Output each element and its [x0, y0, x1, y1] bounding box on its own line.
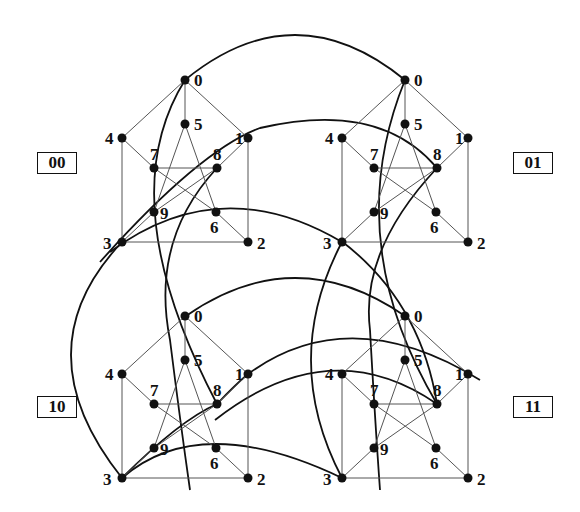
edge-6-2 [436, 212, 468, 242]
vertex-1 [244, 370, 253, 379]
vertex-8 [433, 164, 442, 173]
vertex-label-1: 1 [235, 129, 244, 148]
arc-8-00-to-bottom [165, 168, 217, 490]
vertex-label-9: 9 [160, 204, 169, 223]
edge-3-9 [342, 448, 374, 478]
vertex-label-2: 2 [477, 234, 486, 253]
vertex-9 [370, 208, 379, 217]
vertex-label-2: 2 [257, 470, 266, 489]
vertex-3 [118, 474, 127, 483]
vertex-4 [338, 134, 347, 143]
vertex-label-5: 5 [194, 115, 203, 134]
vertex-0 [401, 76, 410, 85]
vertex-label-0: 0 [414, 307, 423, 326]
vertex-label-4: 4 [325, 365, 334, 384]
vertex-label-7: 7 [150, 381, 159, 400]
vertex-label-3: 3 [323, 234, 332, 253]
vertex-3 [338, 474, 347, 483]
edge-0-4 [122, 80, 185, 138]
vertex-6 [212, 444, 221, 453]
vertex-label-5: 5 [414, 115, 423, 134]
vertex-label-8: 8 [433, 381, 442, 400]
arc-0-00-to-0-01 [185, 35, 405, 80]
vertex-label-9: 9 [380, 440, 389, 459]
vertex-label-0: 0 [414, 71, 423, 90]
vertex-8 [433, 400, 442, 409]
vertex-6 [432, 208, 441, 217]
vertex-label-6: 6 [210, 218, 219, 237]
vertex-label-4: 4 [105, 129, 114, 148]
vertex-0 [401, 312, 410, 321]
vertex-label-1: 1 [455, 129, 464, 148]
vertex-4 [118, 134, 127, 143]
graph-copy-00: 0541789632 [103, 71, 266, 253]
vertex-2 [244, 474, 253, 483]
vertex-2 [464, 238, 473, 247]
graph-copies: 0541789632054178963205417896320541789632 [103, 71, 486, 489]
vertex-9 [150, 208, 159, 217]
vertex-label-9: 9 [160, 440, 169, 459]
vertex-label-5: 5 [414, 351, 423, 370]
vertex-label-3: 3 [323, 470, 332, 489]
vertex-label-0: 0 [194, 307, 203, 326]
copy-label-11: 11 [513, 396, 553, 418]
edge-6-2 [436, 448, 468, 478]
vertex-1 [244, 134, 253, 143]
graph-copy-01: 0541789632 [323, 71, 486, 253]
vertex-5 [181, 356, 190, 365]
vertex-label-8: 8 [433, 145, 442, 164]
vertex-8 [213, 164, 222, 173]
vertex-label-4: 4 [105, 365, 114, 384]
graph-canvas: 0541789632054178963205417896320541789632 [0, 0, 580, 512]
vertex-0 [181, 76, 190, 85]
vertex-6 [432, 444, 441, 453]
vertex-3 [118, 238, 127, 247]
vertex-label-6: 6 [430, 454, 439, 473]
vertex-4 [338, 370, 347, 379]
copy-label-10: 10 [37, 396, 77, 418]
vertex-label-3: 3 [103, 234, 112, 253]
vertex-label-3: 3 [103, 470, 112, 489]
vertex-label-7: 7 [370, 381, 379, 400]
vertex-label-6: 6 [430, 218, 439, 237]
vertex-label-5: 5 [194, 351, 203, 370]
vertex-6 [212, 208, 221, 217]
vertex-2 [464, 474, 473, 483]
vertex-7 [370, 164, 379, 173]
vertex-label-2: 2 [477, 470, 486, 489]
edge-0-4 [342, 316, 405, 374]
vertex-5 [401, 356, 410, 365]
vertex-label-1: 1 [235, 365, 244, 384]
edge-3-9 [122, 448, 154, 478]
vertex-1 [464, 134, 473, 143]
edge-6-2 [216, 212, 248, 242]
vertex-label-6: 6 [210, 454, 219, 473]
vertex-label-9: 9 [380, 204, 389, 223]
vertex-label-8: 8 [213, 381, 222, 400]
arc-3-01-to-3-11 [311, 242, 342, 478]
vertex-8 [213, 400, 222, 409]
inter-copy-arcs [71, 35, 480, 490]
vertex-9 [370, 444, 379, 453]
vertex-1 [464, 370, 473, 379]
arc-3-00-to-3-10 [71, 242, 122, 478]
vertex-7 [150, 164, 159, 173]
vertex-7 [370, 400, 379, 409]
edge-3-9 [342, 212, 374, 242]
copy-label-01: 01 [513, 152, 553, 174]
vertex-label-0: 0 [194, 71, 203, 90]
graph-copy-11: 0541789632 [323, 307, 486, 489]
edge-0-4 [342, 80, 405, 138]
vertex-2 [244, 238, 253, 247]
vertex-7 [150, 400, 159, 409]
vertex-0 [181, 312, 190, 321]
edge-0-4 [122, 316, 185, 374]
vertex-label-7: 7 [370, 145, 379, 164]
vertex-5 [401, 120, 410, 129]
vertex-label-7: 7 [150, 145, 159, 164]
vertex-5 [181, 120, 190, 129]
vertex-9 [150, 444, 159, 453]
edge-6-2 [216, 448, 248, 478]
vertex-label-4: 4 [325, 129, 334, 148]
vertex-3 [338, 238, 347, 247]
